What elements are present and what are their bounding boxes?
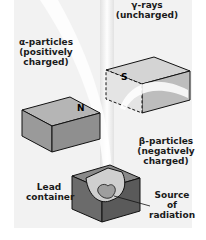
lead-container-label: Lead container [26, 182, 72, 202]
lead-container [72, 165, 150, 222]
alpha-particle-label: α-particles (positively charged) [16, 37, 76, 67]
north-pole-label: N [77, 103, 85, 113]
south-pole-label: S [121, 72, 127, 82]
magnet-north [22, 97, 100, 152]
beta-particle-label: β-particles (negatively charged) [136, 136, 196, 166]
magnet-south [106, 57, 190, 113]
gamma-ray-label: γ-rays (uncharged) [115, 0, 179, 20]
radiation-source-label: Source of radiation [148, 190, 196, 220]
